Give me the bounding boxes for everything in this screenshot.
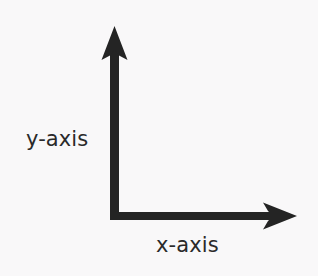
coordinate-axes-diagram: y-axis x-axis [0,0,318,276]
y-axis-arrow [102,26,128,220]
x-axis-arrow [110,203,297,230]
y-axis-label: y-axis [26,129,88,150]
x-axis-label: x-axis [156,235,219,256]
y-axis-shaft [110,48,119,220]
x-axis-shaft [110,212,274,220]
